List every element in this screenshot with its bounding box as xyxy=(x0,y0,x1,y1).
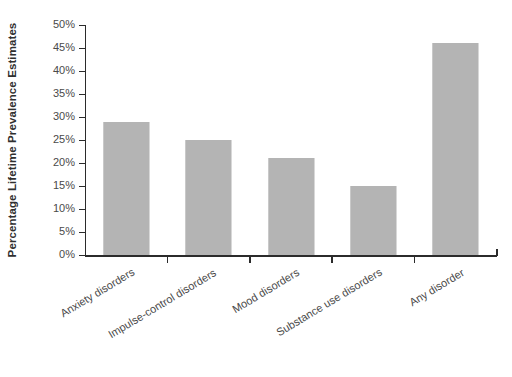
x-axis-label: Mood disorders xyxy=(230,266,301,315)
y-axis-tick-label: 50% xyxy=(15,19,75,30)
x-axis-tick xyxy=(331,256,333,263)
y-axis-tick-label: 20% xyxy=(15,157,75,168)
y-axis-tick-label: 10% xyxy=(15,203,75,214)
plot-area xyxy=(85,25,497,255)
y-axis-tick-label: 30% xyxy=(15,111,75,122)
x-axis-label: Anxiety disorders xyxy=(58,266,137,320)
y-axis-tick-label: 15% xyxy=(15,180,75,191)
bar xyxy=(185,140,232,255)
bar xyxy=(103,122,150,255)
y-axis-tick-label: 35% xyxy=(15,88,75,99)
y-axis-tick-label: 45% xyxy=(15,42,75,53)
y-axis-tick-label: 25% xyxy=(15,134,75,145)
x-axis-tick xyxy=(414,256,416,263)
x-axis-label: Any disorder xyxy=(407,266,466,308)
x-axis-tick xyxy=(167,256,169,263)
y-axis-tick-label: 0% xyxy=(15,249,75,260)
bar-chart: Percentage Lifetime Prevalence Estimates… xyxy=(0,0,512,377)
bar xyxy=(268,158,315,255)
bar xyxy=(432,43,479,255)
y-axis-tick-label: 5% xyxy=(15,226,75,237)
x-axis-tick xyxy=(249,256,251,263)
bar xyxy=(350,186,397,255)
y-axis-tick-label: 40% xyxy=(15,65,75,76)
x-axis-line xyxy=(85,255,497,257)
